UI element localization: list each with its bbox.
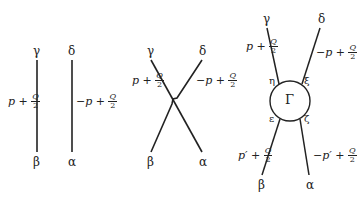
label-beta: β [258,179,265,191]
label-gamma: γ [263,13,270,25]
label-gamma: γ [33,45,40,57]
label-beta: β [147,156,154,168]
momentum-upper-right: −p + Q2 [316,44,357,61]
leg-epsilon-label: ε [269,114,274,124]
leg-alpha [300,119,309,175]
label-delta: δ [199,45,206,57]
leg-eta-label: η [269,76,275,86]
momentum-right: −p + Q2 [76,93,117,110]
label-alpha: α [199,156,207,168]
label-beta: β [33,156,40,168]
momentum-left: p + Q2 [132,72,164,89]
momentum-lower-right: −p′ + Q2 [313,147,357,164]
label-alpha: α [68,156,76,168]
vertex-gamma-label: Γ [285,93,294,106]
label-delta: δ [318,13,325,25]
momentum-lower-left: p′ + Q2 [238,147,272,164]
label-delta: δ [68,45,75,57]
leg-xi-label: ξ [304,76,310,86]
label-alpha: α [306,179,314,191]
momentum-upper-left: p + Q2 [246,38,278,55]
leg-zeta-label: ζ [304,114,309,124]
momentum-right: −p + Q2 [196,72,237,89]
label-gamma: γ [147,45,154,57]
momentum-left: p + Q2 [8,93,40,110]
